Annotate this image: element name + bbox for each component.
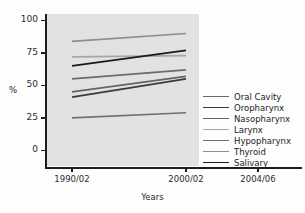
legend-swatch-icon (203, 118, 229, 120)
legend-swatch-icon (203, 107, 229, 109)
legend-swatch-icon (203, 151, 229, 153)
y-axis-tick (41, 20, 45, 21)
legend-item-label: Thyroid (234, 147, 266, 157)
legend-item-label: Salivary (234, 158, 268, 168)
x-axis-tick-label: 2000/02 (156, 174, 216, 184)
x-axis-tick (257, 168, 258, 172)
x-axis-title: Years (0, 192, 305, 202)
y-axis-tick-label: 25 (8, 113, 38, 122)
y-axis-line (45, 14, 47, 168)
legend-item-oropharynx[interactable]: Oropharynx (203, 102, 303, 113)
chart-legend: Oral CavityOropharynxNasopharynxLarynxHy… (203, 91, 303, 168)
x-axis-tick-label: 2004/06 (228, 174, 288, 184)
series-line-hypopharynx (72, 113, 186, 118)
y-axis-title: % (9, 85, 17, 95)
series-line-salivary (72, 50, 186, 66)
x-axis-tick-label: 1990/02 (42, 174, 102, 184)
legend-swatch-icon (203, 96, 229, 98)
y-axis-tick (41, 150, 45, 151)
legend-swatch-icon (203, 129, 229, 131)
legend-item-label: Nasopharynx (234, 114, 290, 124)
series-line-larynx (72, 56, 186, 57)
legend-swatch-icon (203, 162, 229, 164)
series-line-thyroid (72, 33, 186, 41)
legend-item-salivary[interactable]: Salivary (203, 157, 303, 168)
y-axis-tick (41, 85, 45, 86)
chart-figure: 0255075100 1990/022000/022004/06 % Years… (0, 0, 305, 213)
x-axis-tick (71, 168, 72, 172)
series-lines (47, 14, 199, 166)
series-line-nasopharynx (72, 76, 186, 92)
y-axis-tick (41, 117, 45, 118)
legend-swatch-icon (203, 140, 229, 142)
y-axis-tick-label: 100 (8, 15, 38, 24)
legend-item-label: Oropharynx (234, 103, 284, 113)
legend-item-label: Larynx (234, 125, 263, 135)
y-axis-tick-label: 75 (8, 48, 38, 57)
legend-item-nasopharynx[interactable]: Nasopharynx (203, 113, 303, 124)
legend-item-thyroid[interactable]: Thyroid (203, 146, 303, 157)
legend-item-hypopharynx[interactable]: Hypopharynx (203, 135, 303, 146)
legend-item-larynx[interactable]: Larynx (203, 124, 303, 135)
x-axis-tick (185, 168, 186, 172)
y-axis-tick-label: 0 (8, 145, 38, 154)
plot-area (47, 14, 199, 166)
series-line-oral-cavity (72, 70, 186, 79)
legend-item-oral-cavity[interactable]: Oral Cavity (203, 91, 303, 102)
series-line-oropharynx (72, 79, 186, 97)
legend-item-label: Hypopharynx (234, 136, 291, 146)
legend-item-label: Oral Cavity (234, 92, 281, 102)
y-axis-tick (41, 52, 45, 53)
